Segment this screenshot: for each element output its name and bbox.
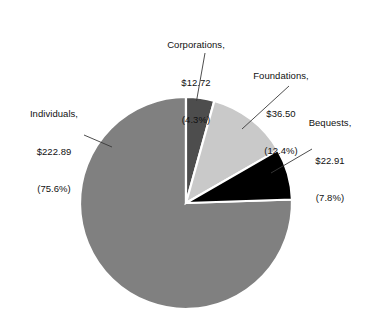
pie-label-corporations: Corporations, $12.72 (4.3%) bbox=[150, 14, 242, 152]
pie-label-bequests-value: $22.91 bbox=[290, 155, 370, 168]
pie-label-individuals-name: Individuals, bbox=[8, 108, 100, 121]
pie-label-corporations-value: $12.72 bbox=[150, 77, 242, 90]
pie-label-corporations-name: Corporations, bbox=[150, 39, 242, 52]
pie-label-foundations-name: Foundations, bbox=[235, 70, 327, 83]
pie-label-individuals-percent: (75.6%) bbox=[8, 183, 100, 196]
pie-label-bequests-name: Bequests, bbox=[290, 117, 370, 130]
pie-label-bequests-percent: (7.8%) bbox=[290, 192, 370, 205]
pie-label-bequests: Bequests, $22.91 (7.8%) bbox=[290, 92, 370, 230]
pie-label-individuals: Individuals, $222.89 (75.6%) bbox=[8, 83, 100, 221]
pie-chart-figure: Corporations, $12.72 (4.3%) Foundations,… bbox=[0, 0, 376, 324]
pie-label-corporations-percent: (4.3%) bbox=[150, 114, 242, 127]
pie-label-individuals-value: $222.89 bbox=[8, 146, 100, 159]
